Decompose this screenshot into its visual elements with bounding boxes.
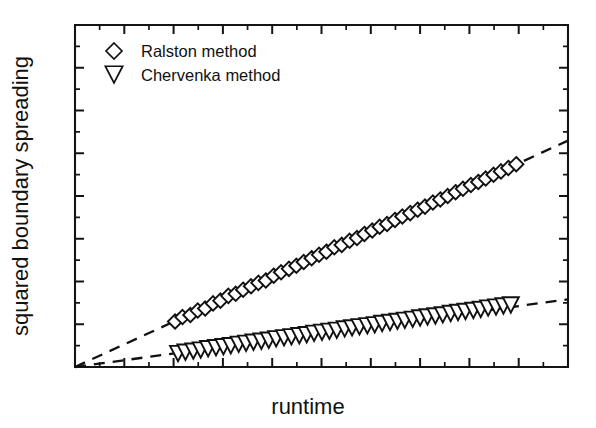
legend-label-ralston: Ralston method [141, 42, 257, 60]
chart-background [0, 0, 596, 428]
y-axis-title: squared boundary spreading [8, 56, 33, 336]
legend-label-chervenka: Chervenka method [141, 66, 280, 84]
chart-canvas: Ralston method Chervenka method runtime … [0, 0, 596, 428]
chart-figure: Ralston method Chervenka method runtime … [0, 0, 596, 428]
x-axis-title: runtime [271, 394, 344, 419]
